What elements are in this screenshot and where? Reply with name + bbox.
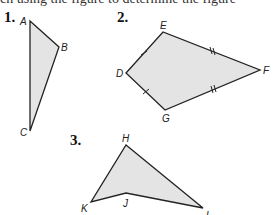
label-d: D: [116, 68, 123, 79]
label-b: B: [61, 42, 68, 53]
label-g: G: [162, 113, 170, 124]
triangle-abc: A B C: [19, 16, 68, 138]
label-h: H: [122, 133, 130, 144]
label-l: L: [206, 210, 212, 215]
label-j: J: [122, 198, 129, 209]
label-f: F: [263, 65, 270, 76]
concave-quad-hjkl: H J K L: [81, 133, 212, 215]
label-a: A: [19, 16, 27, 27]
label-k: K: [81, 203, 89, 214]
kite-defg: D E F G: [116, 20, 270, 124]
figures: A B C D E F G H J K L: [0, 0, 273, 215]
label-c: C: [20, 127, 28, 138]
label-e: E: [160, 20, 167, 31]
